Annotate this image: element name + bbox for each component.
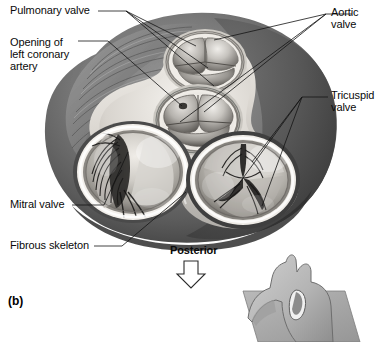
label-opening-left-coronary-line2: left coronary [10,48,69,60]
label-opening-left-coronary-line1: Opening of [10,36,63,48]
label-fibrous-skeleton: Fibrous skeleton [10,239,89,251]
label-opening-left-coronary-line3: artery [10,60,38,72]
label-aortic-valve-line2: valve [331,18,356,30]
label-mitral-valve: Mitral valve [10,198,64,210]
heart-valves-figure: Pulmonary valve Opening of left coronary… [0,0,378,342]
heart-orientation-inset [243,255,360,342]
label-tricuspid-valve-line2: valve [331,101,356,113]
label-posterior: Posterior [170,244,217,256]
label-aortic-valve-line1: Aortic [331,6,359,18]
mitral-valve-group [73,121,193,223]
label-pulmonary-valve: Pulmonary valve [10,4,90,16]
tricuspid-valve-group [186,131,300,229]
panel-letter: (b) [8,294,23,308]
posterior-arrow-icon [177,261,205,288]
left-coronary-artery-opening [179,103,187,109]
label-tricuspid-valve-line1: Tricuspid [331,89,374,101]
